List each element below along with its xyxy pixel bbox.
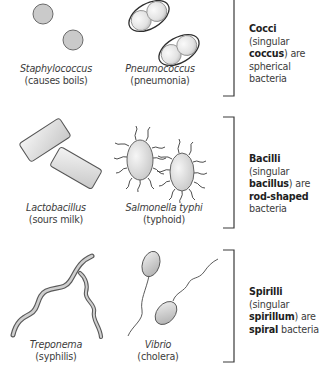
staphylococcus-illustration: [33, 4, 83, 50]
caption-vibrio: Vibrio (cholera): [118, 339, 198, 363]
pneumococcus-illustration: [124, 0, 205, 72]
disease-label: (cholera): [118, 351, 198, 363]
treponema-illustration: [13, 256, 101, 337]
disease-label: (pneumonia): [114, 75, 206, 87]
disease-label: (causes boils): [10, 75, 102, 87]
scientific-name: Vibrio: [118, 339, 198, 351]
disease-label: (syphilis): [10, 351, 102, 363]
caption-treponema: Treponema (syphilis): [10, 339, 102, 363]
singular-term: coccus: [249, 48, 284, 59]
scientific-name: Salmonella typhi: [114, 202, 214, 214]
caption-staphylococcus: Staphylococcus (causes boils): [10, 63, 102, 87]
scientific-name: Lactobacillus: [10, 202, 102, 214]
suffix: bacteria: [249, 203, 287, 214]
group-term: Cocci: [249, 23, 276, 34]
scientific-name: Treponema: [10, 339, 102, 351]
lactobacillus-illustration: [19, 118, 102, 190]
bracket-bacilli: [223, 117, 234, 228]
group-term: Spirilli: [249, 286, 282, 297]
paren-close: ) are: [295, 311, 316, 322]
description-cocci: Cocci (singular coccus) are spherical ba…: [249, 23, 319, 86]
paren-close: ) are: [289, 178, 310, 189]
vibrio-illustration: [128, 249, 218, 336]
disease-label: (sours milk): [10, 214, 102, 226]
group-term: Bacilli: [249, 153, 280, 164]
salmonella-illustration: [114, 126, 207, 203]
shape-term: rod-shaped: [249, 191, 308, 202]
bracket-spirilli: [223, 250, 234, 362]
bracket-cocci: [223, 0, 234, 96]
disease-label: (typhoid): [114, 214, 214, 226]
paren-open: (singular: [249, 299, 289, 310]
caption-pneumococcus: Pneumococcus (pneumonia): [114, 63, 206, 87]
description-bacilli: Bacilli (singular bacillus) are rod-shap…: [249, 153, 319, 216]
paren-open: (singular: [249, 36, 289, 47]
paren-open: (singular: [249, 166, 289, 177]
group-brackets: [223, 0, 234, 362]
caption-salmonella: Salmonella typhi (typhoid): [114, 202, 214, 226]
caption-lactobacillus: Lactobacillus (sours milk): [10, 202, 102, 226]
shape-term: spiral: [249, 324, 278, 335]
description-spirilli: Spirilli (singular spirillum) are spiral…: [249, 286, 319, 336]
singular-term: bacillus: [249, 178, 289, 189]
singular-term: spirillum: [249, 311, 295, 322]
scientific-name: Pneumococcus: [114, 63, 206, 75]
suffix: bacteria: [278, 324, 319, 335]
scientific-name: Staphylococcus: [10, 63, 102, 75]
